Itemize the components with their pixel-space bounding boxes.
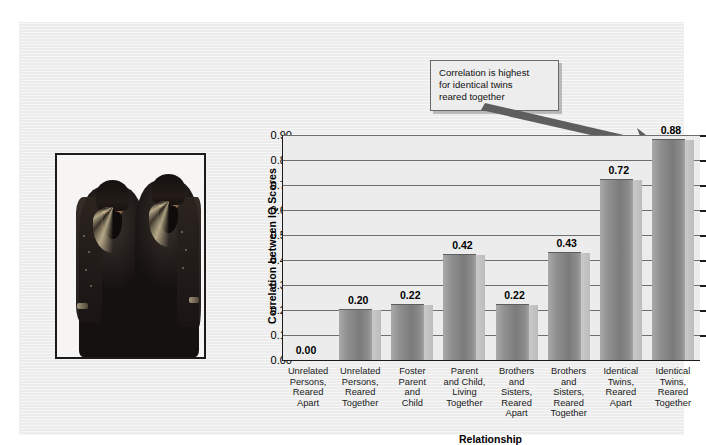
bar-side-face: [529, 305, 538, 360]
x-axis-category-line: Apart: [593, 398, 649, 409]
right-axis-tick: [700, 160, 706, 162]
x-axis-category-line: Reared: [332, 387, 388, 398]
x-axis-category-line: Unrelated: [332, 366, 388, 377]
x-axis-category-line: Parent: [436, 366, 492, 377]
x-axis-category-line: and: [489, 377, 545, 388]
x-axis-category-line: Unrelated: [280, 366, 336, 377]
x-axis-category-line: Identical: [645, 366, 701, 377]
right-axis-tick: [700, 135, 706, 137]
x-axis-category-line: and: [384, 387, 440, 398]
x-axis-category-line: Together: [436, 398, 492, 409]
bar-value-label: 0.20: [335, 294, 381, 306]
bar-value-label: 0.88: [648, 124, 694, 136]
bar-slot: 0.00: [283, 135, 335, 360]
x-axis-category-line: Identical: [593, 366, 649, 377]
x-axis-category-label: Parentand Child,LivingTogether: [436, 366, 492, 408]
sleeve-cuff: [189, 297, 199, 303]
x-axis-category-line: Sisters,: [541, 387, 597, 398]
annotation-callout: Correlation is highest for identical twi…: [430, 60, 559, 111]
photo-canvas: [57, 155, 204, 357]
bar-4[interactable]: [496, 304, 529, 360]
bar-side-face: [685, 140, 694, 360]
bar-side-face: [581, 253, 590, 361]
bar-value-label: 0.22: [492, 289, 538, 301]
right-axis-tick: [700, 310, 706, 312]
x-axis-category-label: BrothersandSisters,RearedApart: [489, 366, 545, 419]
x-axis-category-line: Reared: [489, 398, 545, 409]
annotation-line-3: reared together: [439, 91, 551, 103]
x-axis-category-line: and: [541, 377, 597, 388]
x-axis-category-line: Sisters,: [489, 387, 545, 398]
x-axis-category-line: Apart: [280, 398, 336, 409]
right-axis-tick: [700, 260, 706, 262]
right-axis-tick: [700, 235, 706, 237]
x-axis-category-line: Twins,: [645, 377, 701, 388]
twins-photograph: [55, 153, 206, 359]
bar-5[interactable]: [548, 252, 581, 361]
x-axis-category-label: UnrelatedPersons,RearedApart: [280, 366, 336, 408]
plot-area: 0.000.200.220.420.220.430.720.88: [282, 135, 700, 361]
annotation-line-1: Correlation is highest: [439, 67, 551, 79]
x-axis-category-line: Reared: [541, 398, 597, 409]
x-axis-category-line: Apart: [489, 408, 545, 419]
x-axis-category-line: Living: [436, 387, 492, 398]
x-axis-category-line: and Child,: [436, 377, 492, 388]
bar-value-label: 0.00: [283, 344, 329, 356]
embroidery-speck: [185, 249, 187, 251]
bar-slot: 0.22: [387, 135, 439, 360]
figure-panel: Correlation is highest for identical twi…: [19, 22, 684, 435]
x-axis-category-line: Reared: [280, 387, 336, 398]
x-axis-category-line: Brothers: [489, 366, 545, 377]
bar-1[interactable]: [339, 309, 372, 360]
x-axis-title: Relationship: [282, 433, 699, 445]
x-axis-category-line: Foster: [384, 366, 440, 377]
embroidery-speck: [83, 235, 85, 237]
embroidery-speck: [90, 285, 92, 287]
bar-value-label: 0.22: [387, 289, 433, 301]
x-axis-category-label: IdenticalTwins,RearedApart: [593, 366, 649, 408]
right-axis-tick: [700, 335, 706, 337]
bar-slot: 0.22: [492, 135, 544, 360]
embroidery-speck: [88, 251, 90, 253]
x-axis-category-line: Together: [332, 398, 388, 409]
x-axis-category-label: IdenticalTwins,RearedTogether: [645, 366, 701, 408]
iq-correlation-bar-chart: Correlation between IQ Scores 0.900.800.…: [235, 128, 703, 445]
embroidery-speck: [85, 269, 87, 271]
x-axis-category-label: FosterParentandChild: [384, 366, 440, 408]
bar-2[interactable]: [391, 304, 424, 360]
bar-slot: 0.43: [544, 135, 596, 360]
embroidery-speck: [181, 231, 183, 233]
x-axis-category-line: Child: [384, 398, 440, 409]
bar-slot: 0.42: [439, 135, 491, 360]
bar-slot: 0.72: [596, 135, 648, 360]
right-axis-tick: [700, 210, 706, 212]
bar-side-face: [476, 255, 485, 360]
x-axis-category-line: Together: [645, 398, 701, 409]
bar-side-face: [372, 310, 381, 360]
bar-3[interactable]: [443, 254, 476, 360]
x-axis-category-line: Reared: [645, 387, 701, 398]
x-axis-category-line: Twins,: [593, 377, 649, 388]
x-axis-category-line: Together: [541, 408, 597, 419]
bar-value-label: 0.43: [544, 237, 590, 249]
x-axis-category-line: Persons,: [280, 377, 336, 388]
bar-value-label: 0.42: [439, 239, 485, 251]
bar-value-label: 0.72: [596, 164, 642, 176]
x-axis-category-line: Persons,: [332, 377, 388, 388]
bar-slot: 0.88: [648, 135, 700, 360]
bar-slot: 0.20: [335, 135, 387, 360]
right-axis-tick: [700, 285, 706, 287]
x-axis-category-line: Reared: [593, 387, 649, 398]
x-axis-category-label: BrothersandSisters,RearedTogether: [541, 366, 597, 419]
bar-side-face: [424, 305, 433, 360]
x-axis-category-line: Brothers: [541, 366, 597, 377]
bar-6[interactable]: [600, 179, 633, 360]
embroidery-speck: [182, 267, 184, 269]
bar-7[interactable]: [652, 139, 685, 360]
annotation-line-2: for identical twins: [439, 79, 551, 91]
bar-side-face: [633, 180, 642, 360]
sleeve-cuff: [77, 303, 88, 309]
right-axis-tick: [700, 185, 706, 187]
x-axis-category-label: UnrelatedPersons,RearedTogether: [332, 366, 388, 408]
x-axis-category-line: Parent: [384, 377, 440, 388]
